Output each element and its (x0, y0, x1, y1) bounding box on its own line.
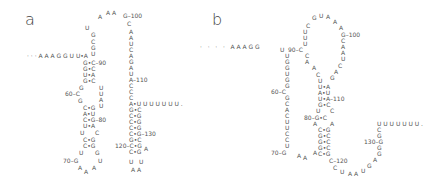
nucleotide-label: · · · · A A A G G (200, 44, 260, 50)
panel-a-structure: a · · · A A A G G U U•AG•C–90G•CU•AG•CUG… (0, 0, 220, 191)
nucleotide-label: U (319, 13, 323, 19)
nucleotide-label: G (78, 98, 83, 104)
nucleotide-label: G (377, 145, 382, 151)
nucleotide-label: A (84, 169, 88, 175)
nucleotide-label: C (127, 21, 131, 27)
nucleotide-label: A (354, 171, 358, 177)
nucleotide-label: A (333, 19, 337, 25)
nucleotide-label: A (305, 59, 309, 65)
nucleotide-label: G (312, 15, 317, 21)
nucleotide-label: U (340, 169, 344, 175)
nucleotide-label: U (91, 51, 95, 57)
nucleotide-label: A (98, 14, 102, 20)
nucleotide-label: C (95, 130, 99, 136)
nucleotide-label: C (377, 127, 381, 133)
nucleotide-label: G•C (83, 78, 95, 84)
nucleotide-label: U (303, 29, 307, 35)
nucleotide-label: 130–G (364, 139, 383, 145)
nucleotide-label: U (98, 158, 102, 164)
nucleotide-label: G–100 (123, 13, 142, 19)
nucleotide-label: A A (131, 167, 141, 173)
nucleotide-label: C•G (83, 143, 95, 149)
nucleotide-label: U (99, 103, 103, 109)
nucleotide-label: U (303, 41, 307, 47)
nucleotide-label: C (330, 108, 334, 114)
nucleotide-label: U•A (83, 123, 95, 129)
panel-b-label: b (212, 10, 222, 29)
nucleotide-label: C–120 (329, 158, 348, 164)
nucleotide-label: U U (129, 159, 144, 165)
nucleotide-label: G (377, 133, 382, 139)
nucleotide-label: U (361, 168, 365, 174)
nucleotide-label: A (303, 155, 307, 161)
nucleotide-label: 90–C (288, 47, 303, 53)
nucleotide-label: A (326, 14, 330, 20)
nucleotide-label: · · · A A A G G U U•A (27, 53, 88, 59)
nucleotide-label: U (79, 150, 83, 156)
nucleotide-label: A (348, 171, 352, 177)
nucleotide-label: U U U U U U U . (377, 121, 423, 127)
panel-a-label: a (25, 10, 35, 29)
panel-b-structure: b · · · · A A A G GU90–CUGGUGG60–CGCACUU… (200, 0, 439, 191)
nucleotide-label: C (306, 23, 310, 29)
nucleotide-label: G (367, 163, 372, 169)
nucleotide-label: 60–C (271, 89, 286, 95)
nucleotide-label: G (95, 150, 100, 156)
nucleotide-label: A (92, 165, 96, 171)
nucleotide-label: U (280, 47, 284, 53)
nucleotide-label: A (297, 153, 301, 159)
nucleotide-label: A (144, 146, 148, 152)
nucleotide-label: A (313, 121, 317, 127)
nucleotide-label: C•G (129, 149, 141, 155)
nucleotide-label: 70–G (63, 158, 78, 164)
nucleotide-label: A (373, 157, 377, 163)
nucleotide-label: A (78, 165, 82, 171)
nucleotide-label: A (313, 150, 317, 156)
nucleotide-label: G (330, 75, 335, 81)
nucleotide-label: U (303, 35, 307, 41)
nucleotide-label: C (333, 165, 337, 171)
nucleotide-label: U (85, 25, 89, 31)
nucleotide-label: A (330, 121, 334, 127)
nucleotide-label: A A (106, 10, 116, 16)
nucleotide-label: C (338, 63, 342, 69)
nucleotide-label: G (377, 151, 382, 157)
nucleotide-label: 70–G (271, 150, 286, 156)
